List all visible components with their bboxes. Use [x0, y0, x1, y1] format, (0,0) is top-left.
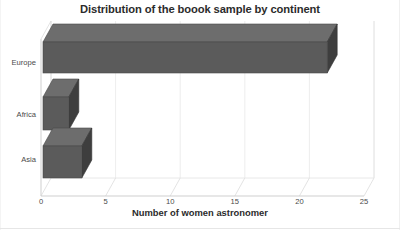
bar-europe-front-face: [43, 42, 327, 73]
plot-area: [0, 0, 400, 230]
chart-container: Distribution of the boook sample by cont…: [0, 0, 400, 230]
category-label-asia: Asia: [2, 155, 36, 164]
floor-plane: [41, 178, 374, 196]
bar-europe-top-face: [43, 24, 337, 42]
bar-asia-front-face: [43, 146, 82, 178]
bar-europe: [43, 24, 337, 73]
x-axis-title: Number of women astronomer: [0, 207, 400, 218]
x-tick-label-15: 15: [225, 197, 245, 206]
x-tick-label-5: 5: [96, 197, 116, 206]
x-tick-label-10: 10: [160, 197, 180, 206]
category-label-europe: Europe: [2, 58, 36, 67]
bar-asia: [43, 128, 92, 178]
x-tick-label-0: 0: [31, 197, 51, 206]
bar-africa-front-face: [43, 97, 69, 130]
category-label-africa: Africa: [2, 110, 36, 119]
x-tick-label-25: 25: [354, 197, 374, 206]
x-tick-label-20: 20: [289, 197, 309, 206]
